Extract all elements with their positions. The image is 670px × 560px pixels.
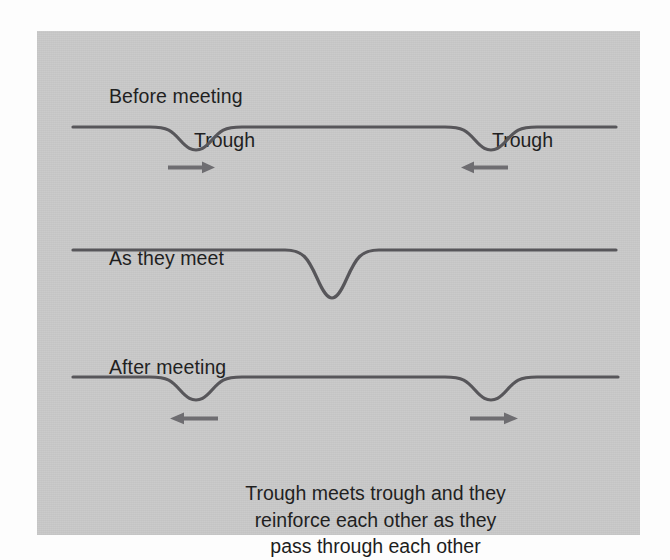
trough-label-right: Trough: [492, 130, 553, 150]
trough-label-left: Trough: [194, 130, 255, 150]
stage-label-as-they-meet: As they meet: [109, 248, 224, 268]
caption-line-1: Trough meets trough and they: [74, 480, 670, 507]
diagram-panel: Before meeting As they meet After meetin…: [37, 31, 640, 535]
stage-label-before-meeting: Before meeting: [109, 86, 243, 106]
caption-line-3: pass through each other: [74, 533, 670, 560]
caption-line-2: reinforce each other as they: [74, 507, 670, 534]
figure-root: Before meeting As they meet After meetin…: [0, 0, 670, 560]
figure-caption: Trough meets trough and they reinforce e…: [74, 480, 670, 560]
stage-label-after-meeting: After meeting: [109, 357, 226, 377]
